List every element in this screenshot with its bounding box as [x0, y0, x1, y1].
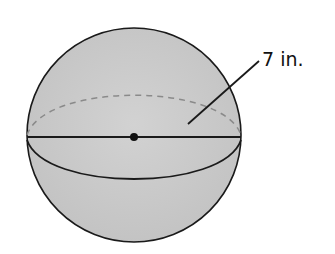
radius-label: 7 in. [262, 50, 304, 69]
sphere-diagram [0, 0, 335, 254]
center-point [130, 133, 138, 141]
